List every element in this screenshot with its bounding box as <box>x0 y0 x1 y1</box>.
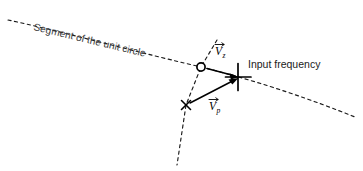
input-frequency-label: Input frequency <box>248 58 321 70</box>
vector-vp-arrowhead <box>229 78 239 85</box>
vector-vp-subscript: p <box>216 106 221 115</box>
figure-canvas: Segment of the unit circle Input frequen… <box>0 0 363 171</box>
unit-circle-label: Segment of the unit circle <box>33 21 148 59</box>
vector-vz-label-group: V z <box>215 43 226 60</box>
vector-vp-label-group: V p <box>209 98 221 115</box>
open-circle-zero-marker <box>197 63 205 71</box>
vector-vz-subscript: z <box>222 51 226 60</box>
vector-vz <box>207 69 239 80</box>
vector-vz-shaft <box>207 69 234 76</box>
unit-circle-label-group: Segment of the unit circle <box>33 21 148 59</box>
unit-circle-vector-diagram: Segment of the unit circle Input frequen… <box>0 0 363 171</box>
